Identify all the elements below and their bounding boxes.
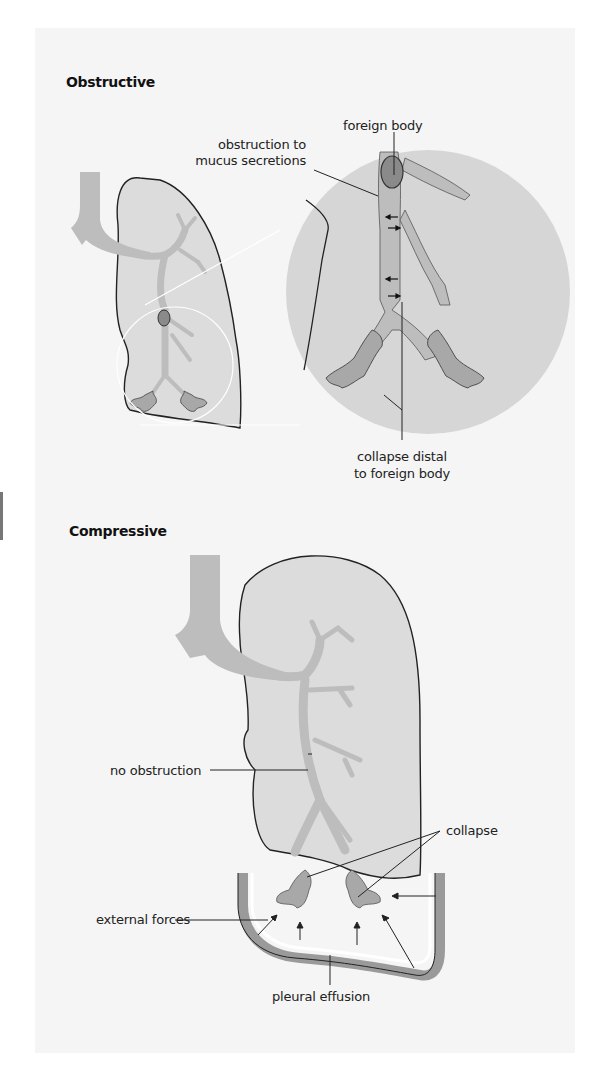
obstructive-lung <box>71 172 300 428</box>
label-obstruction-line1: obstruction to <box>160 137 306 153</box>
label-no-obstruction: no obstruction <box>110 763 201 779</box>
label-collapse-distal-line2: to foreign body <box>334 466 470 482</box>
section-title-compressive: Compressive <box>69 523 167 539</box>
label-collapse: collapse <box>446 823 498 839</box>
obstructive-magnified-view <box>286 132 570 440</box>
label-obstruction-line2: mucus secretions <box>160 153 306 169</box>
label-collapse-distal-line1: collapse distal <box>334 449 470 465</box>
label-foreign-body: foreign body <box>343 118 423 134</box>
label-pleural-effusion: pleural effusion <box>272 989 370 1005</box>
compressive-lung <box>175 555 440 985</box>
section-title-obstructive: Obstructive <box>66 74 155 90</box>
label-external-forces: external forces <box>96 912 190 928</box>
